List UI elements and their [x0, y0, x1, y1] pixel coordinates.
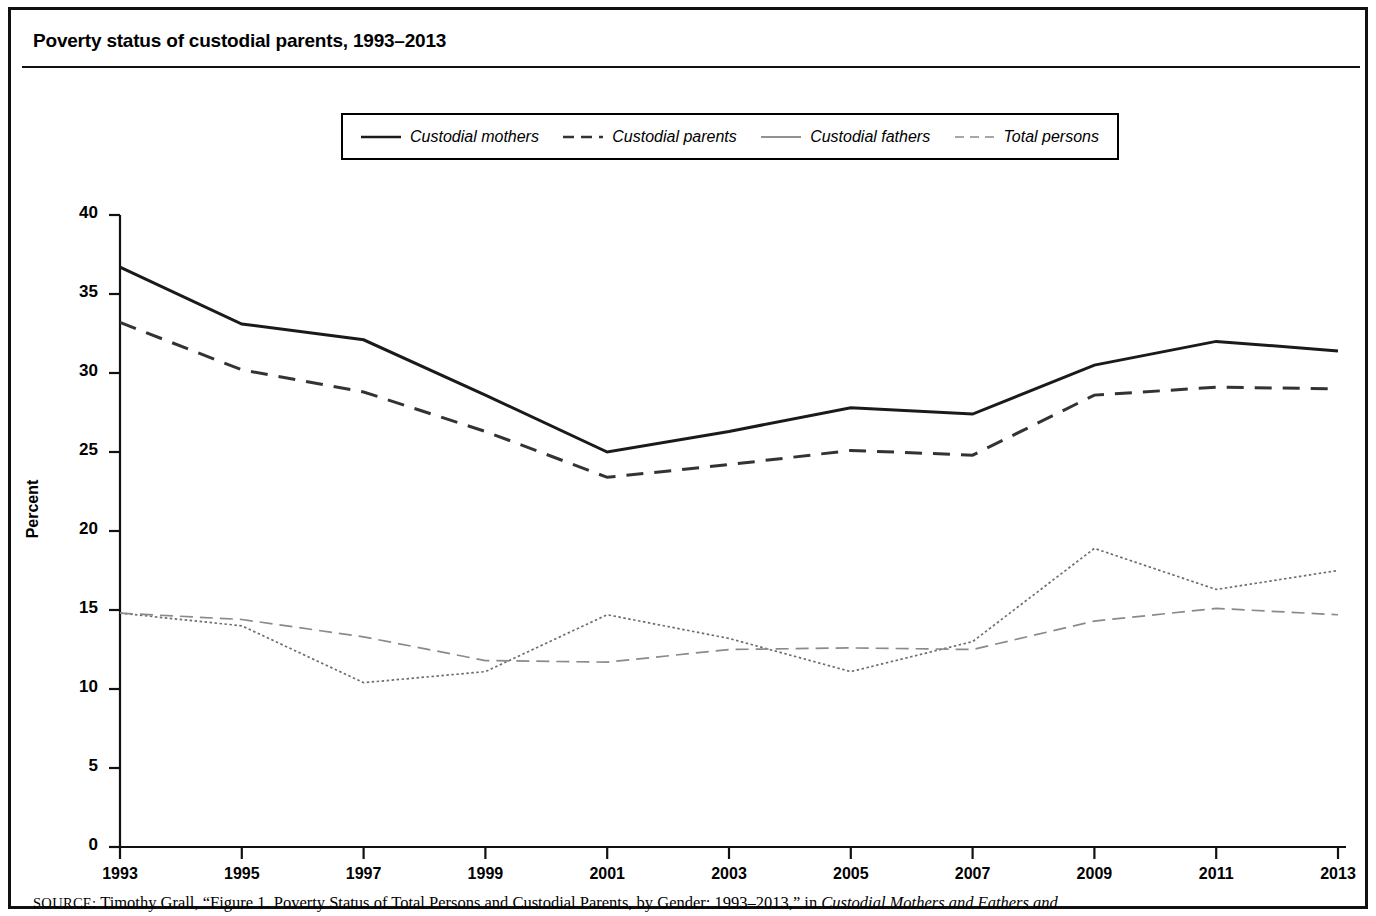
x-axis-tick-label: 2011 — [1176, 865, 1256, 883]
x-axis-tick-label: 1995 — [202, 865, 282, 883]
y-axis-tick-label: 25 — [58, 440, 98, 460]
source-note: SOURCE: Timothy Grall, “Figure 1. Povert… — [33, 894, 1363, 913]
x-axis-tick-label: 1997 — [324, 865, 404, 883]
legend-item-custodial-parents[interactable]: Custodial parents — [563, 128, 737, 146]
x-axis-tick-label: 2013 — [1298, 865, 1376, 883]
line-dotted-icon — [761, 132, 801, 142]
x-axis-tick-label: 2003 — [689, 865, 769, 883]
legend-label: Custodial fathers — [810, 128, 930, 146]
series-line-custodial-mothers — [120, 267, 1338, 452]
line-dashdot-icon — [955, 132, 995, 142]
y-axis-tick-label: 15 — [58, 598, 98, 618]
y-axis-title: Percent — [24, 469, 42, 549]
source-kicker: SOURCE: — [33, 895, 96, 911]
legend-item-total-persons[interactable]: Total persons — [955, 128, 1099, 146]
y-axis-tick-label: 5 — [58, 756, 98, 776]
y-axis-tick-label: 20 — [58, 519, 98, 539]
page-title: Poverty status of custodial parents, 199… — [33, 30, 446, 52]
legend-label: Total persons — [1004, 128, 1099, 146]
source-body: Timothy Grall, “Figure 1. Poverty Status… — [96, 894, 821, 912]
title-divider — [22, 66, 1360, 68]
legend-label: Custodial mothers — [410, 128, 539, 146]
source-title-italic: Custodial Mothers and Fathers and — [821, 894, 1058, 912]
x-axis-tick-label: 2005 — [811, 865, 891, 883]
line-dashed-icon — [563, 132, 603, 142]
figure-frame: Poverty status of custodial parents, 199… — [8, 7, 1368, 909]
y-axis-tick-label: 35 — [58, 282, 98, 302]
x-axis-tick-label: 2001 — [567, 865, 647, 883]
x-axis-tick-label: 1999 — [445, 865, 525, 883]
y-axis-tick-label: 30 — [58, 361, 98, 381]
series-line-custodial-parents — [120, 322, 1338, 477]
y-axis-tick-label: 10 — [58, 677, 98, 697]
legend-item-custodial-fathers[interactable]: Custodial fathers — [761, 128, 930, 146]
x-axis-tick-label: 2007 — [933, 865, 1013, 883]
legend-label: Custodial parents — [612, 128, 737, 146]
line-solid-icon — [361, 132, 401, 142]
y-axis-tick-label: 40 — [58, 203, 98, 223]
legend-item-custodial-mothers[interactable]: Custodial mothers — [361, 128, 539, 146]
chart-axes — [109, 215, 1346, 859]
x-axis-tick-label: 2009 — [1054, 865, 1134, 883]
chart-series — [120, 267, 1338, 683]
series-line-total-persons — [120, 608, 1338, 662]
x-axis-tick-label: 1993 — [80, 865, 160, 883]
series-line-custodial-fathers — [120, 548, 1338, 682]
y-axis-tick-label: 0 — [58, 835, 98, 855]
chart-legend: Custodial mothers Custodial parents Cust… — [341, 113, 1119, 160]
